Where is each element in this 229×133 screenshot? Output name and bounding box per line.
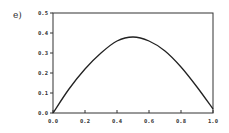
x-tick-label: 0.6 <box>144 118 155 124</box>
x-tick-label: 0.2 <box>80 118 90 124</box>
x-tick-label: 0.4 <box>112 118 123 124</box>
y-tick-label: 0.4 <box>38 30 49 36</box>
y-tick-label: 0.5 <box>38 10 48 16</box>
data-curve <box>53 37 213 113</box>
line-chart: 0.00.10.20.30.40.5 0.00.20.40.60.81.0 <box>0 0 229 133</box>
x-tick-label: 0.8 <box>176 118 186 124</box>
y-axis-ticks: 0.00.10.20.30.40.5 <box>38 10 53 116</box>
x-tick-label: 0.0 <box>48 118 58 124</box>
x-axis-ticks: 0.00.20.40.60.81.0 <box>48 110 218 124</box>
plot-frame <box>53 13 213 113</box>
x-tick-label: 1.0 <box>208 118 218 124</box>
y-tick-label: 0.1 <box>38 90 49 96</box>
y-tick-label: 0.2 <box>38 70 48 76</box>
axes-box <box>53 13 213 113</box>
y-tick-label: 0.3 <box>38 50 48 56</box>
y-tick-label: 0.0 <box>38 110 48 116</box>
